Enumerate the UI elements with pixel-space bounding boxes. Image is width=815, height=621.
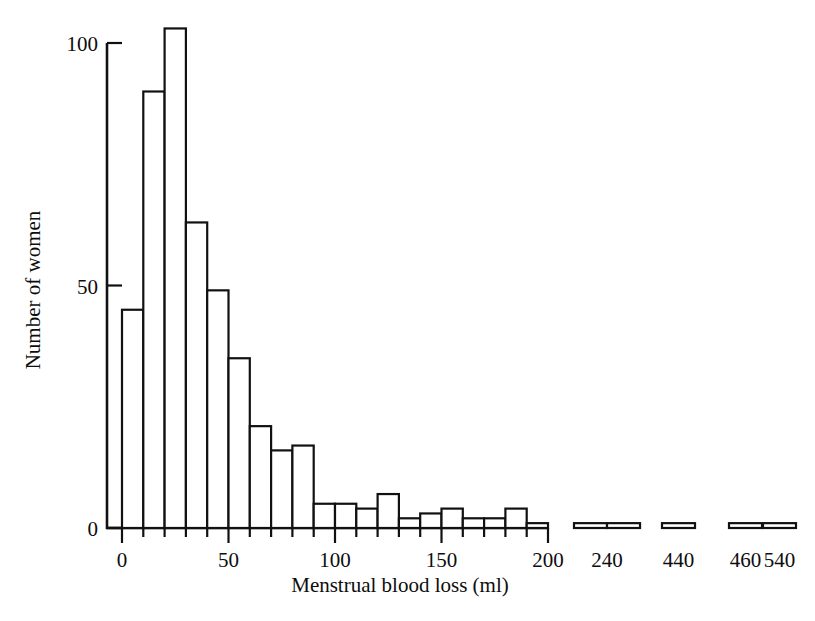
histogram-bar xyxy=(420,513,441,528)
histogram-outlier-bar xyxy=(763,523,796,528)
x-axis-ticks xyxy=(122,528,548,543)
x-axis-outlier-label: 460 xyxy=(730,548,762,572)
histogram-bar xyxy=(292,446,313,528)
x-axis-tick-label: 0 xyxy=(117,548,128,572)
histogram-bar xyxy=(314,504,335,528)
histogram-bar xyxy=(356,509,377,528)
x-axis-title: Menstrual blood loss (ml) xyxy=(291,573,509,597)
y-axis-tick-label: 100 xyxy=(67,32,99,56)
histogram-bar xyxy=(207,290,228,528)
histogram-bar xyxy=(484,518,505,528)
x-axis-outlier-label: 540 xyxy=(764,548,796,572)
histogram-figure: 050100 050100150200 240440460540 Menstru… xyxy=(0,0,815,621)
histogram-bar xyxy=(463,518,484,528)
x-axis-tick-label: 50 xyxy=(218,548,239,572)
histogram-bar xyxy=(271,450,292,528)
y-axis-tick-label: 0 xyxy=(88,517,99,541)
histogram-outlier-bar xyxy=(729,523,762,528)
x-axis-tick-labels: 050100150200 xyxy=(117,548,564,572)
histogram-outlier-bars xyxy=(574,523,796,528)
x-axis-outlier-labels: 240440460540 xyxy=(591,548,795,572)
histogram-bar xyxy=(442,509,463,528)
histogram-bar xyxy=(335,504,356,528)
x-axis-tick-label: 100 xyxy=(319,548,351,572)
histogram-bar xyxy=(505,509,526,528)
x-axis-outlier-label: 440 xyxy=(663,548,695,572)
histogram-outlier-bar xyxy=(574,523,607,528)
histogram-bars xyxy=(122,28,548,528)
histogram-bar xyxy=(250,426,271,528)
y-axis-ticks xyxy=(107,43,122,286)
histogram-bar xyxy=(527,523,548,528)
histogram-bar xyxy=(122,310,143,528)
histogram-bar xyxy=(186,222,207,528)
x-axis-tick-label: 200 xyxy=(532,548,564,572)
x-axis-outlier-label: 240 xyxy=(591,548,623,572)
histogram-bar xyxy=(378,494,399,528)
y-axis-title: Number of women xyxy=(21,210,45,369)
x-axis-tick-label: 150 xyxy=(426,548,458,572)
histogram-bar xyxy=(165,28,186,528)
histogram-outlier-bar xyxy=(607,523,640,528)
histogram-bar xyxy=(143,92,164,529)
y-axis-tick-label: 50 xyxy=(77,275,98,299)
histogram-bar xyxy=(229,358,250,528)
y-axis-tick-labels: 050100 xyxy=(67,32,99,541)
histogram-outlier-bar xyxy=(662,523,695,528)
histogram-svg: 050100 050100150200 240440460540 Menstru… xyxy=(0,0,815,621)
histogram-bar xyxy=(399,518,420,528)
